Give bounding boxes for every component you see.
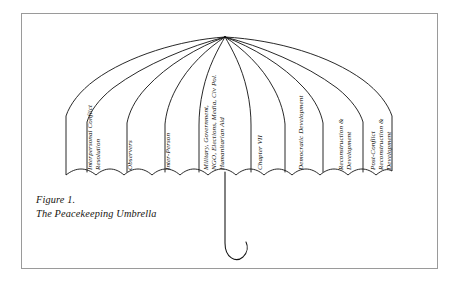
figure-number: Figure 1. <box>36 193 157 207</box>
rib-1 <box>87 37 225 172</box>
figure-caption: Figure 1. The Peacekeeping Umbrella <box>36 193 157 221</box>
rib-3 <box>165 37 225 172</box>
rib-7 <box>225 37 323 172</box>
rib-5 <box>225 37 251 172</box>
umbrella-drawing <box>0 0 458 283</box>
rib-2 <box>127 37 225 172</box>
figure-root: Interpersonal Conflict Resolution Observ… <box>0 0 458 283</box>
canopy-outline <box>66 37 392 175</box>
rib-8 <box>225 37 363 172</box>
umbrella-handle <box>225 172 247 259</box>
figure-title: The Peacekeeping Umbrella <box>36 207 157 221</box>
rib-4 <box>199 37 225 172</box>
rib-6 <box>225 37 285 172</box>
